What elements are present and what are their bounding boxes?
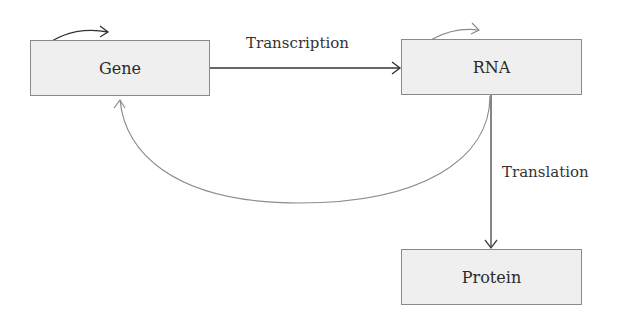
feedback-arc-arrow bbox=[114, 96, 490, 203]
protein-node: Protein bbox=[401, 249, 582, 305]
protein-label: Protein bbox=[462, 268, 521, 287]
rna-node: RNA bbox=[401, 39, 582, 95]
gene-expression-diagram: Gene RNA Protein Transcription Translati… bbox=[0, 0, 620, 320]
gene-node: Gene bbox=[30, 40, 210, 96]
transcription-arrow bbox=[210, 62, 400, 74]
gene-label: Gene bbox=[99, 59, 141, 78]
translation-label: Translation bbox=[502, 163, 589, 181]
transcription-label: Transcription bbox=[246, 34, 349, 52]
rna-label: RNA bbox=[473, 58, 511, 77]
